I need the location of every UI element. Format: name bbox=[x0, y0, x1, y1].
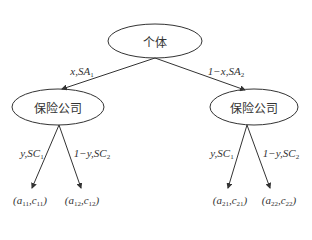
edge-label-right-1: y,SC1 bbox=[210, 147, 233, 161]
leaf-payoff-12: (a12,c12) bbox=[65, 194, 99, 208]
leaf-payoff-11: (a11,c11) bbox=[13, 194, 47, 208]
left-node-label: 保险公司 bbox=[34, 99, 82, 116]
edge-label-left-1: y,SC1 bbox=[20, 147, 43, 161]
edge-label-left-2: 1−y,SC2 bbox=[74, 147, 110, 161]
edge-label-root-left: x,SA1 bbox=[70, 65, 93, 79]
right-node-label: 保险公司 bbox=[230, 99, 278, 116]
leaf-payoff-22: (a22,c22) bbox=[262, 194, 296, 208]
edge-label-right-2: 1−y,SC2 bbox=[263, 147, 299, 161]
leaf-payoff-21: (a21,c21) bbox=[213, 194, 247, 208]
root-node-label: 个体 bbox=[143, 33, 167, 50]
edge-label-root-right: 1−x,SA2 bbox=[208, 65, 244, 79]
